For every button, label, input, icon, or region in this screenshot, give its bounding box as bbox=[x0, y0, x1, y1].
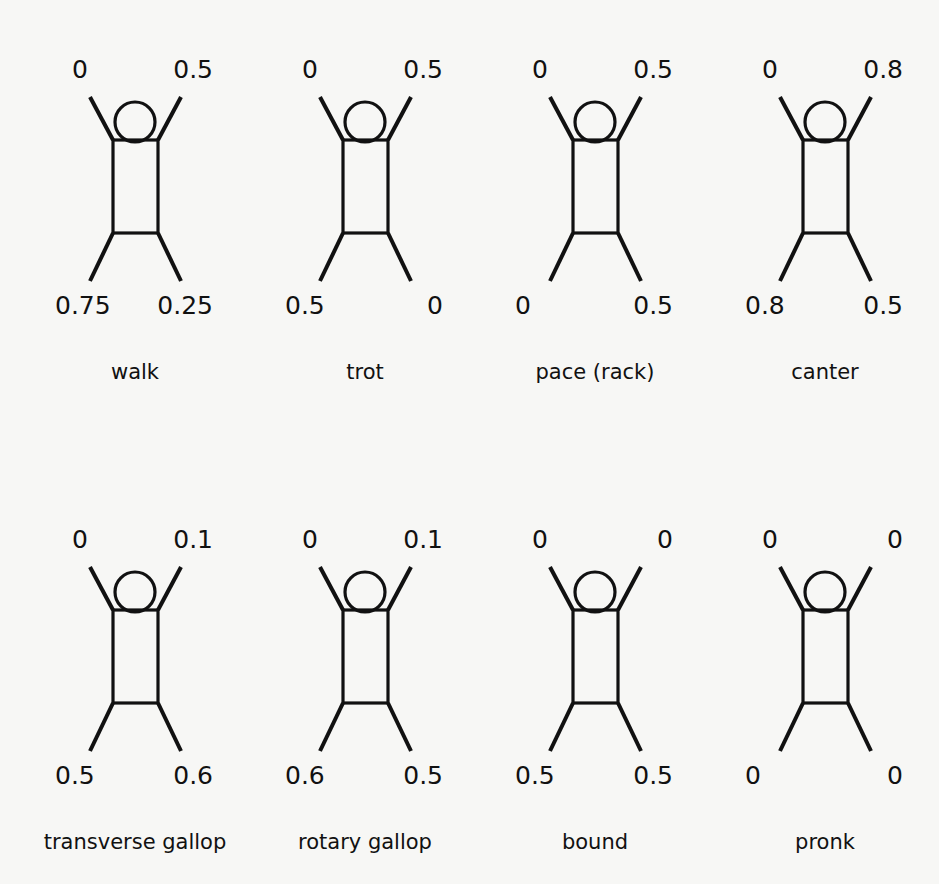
gait-name: pace (rack) bbox=[480, 360, 710, 384]
gait-name: rotary gallop bbox=[250, 830, 480, 854]
gait-name: trot bbox=[250, 360, 480, 384]
hind-right-phase: 0 bbox=[427, 293, 443, 318]
hind-right-phase: 0 bbox=[887, 763, 903, 788]
hind-right-phase: 0.5 bbox=[633, 293, 673, 318]
hind-right-phase: 0.6 bbox=[173, 763, 213, 788]
front-left-phase: 0 bbox=[302, 57, 318, 82]
front-right-phase: 0.5 bbox=[173, 57, 213, 82]
gait-name: transverse gallop bbox=[20, 830, 250, 854]
hind-left-phase: 0 bbox=[745, 763, 761, 788]
front-left-phase: 0 bbox=[762, 527, 778, 552]
gait-figure-walk: 0 0.5 0.75 0.25 walk bbox=[20, 45, 250, 405]
hind-right-phase: 0.5 bbox=[863, 293, 903, 318]
front-right-phase: 0.1 bbox=[403, 527, 443, 552]
hind-left-phase: 0.5 bbox=[515, 763, 555, 788]
gait-name: canter bbox=[710, 360, 939, 384]
front-right-phase: 0.5 bbox=[633, 57, 673, 82]
hind-left-phase: 0.5 bbox=[285, 293, 325, 318]
front-left-phase: 0 bbox=[532, 527, 548, 552]
hind-left-phase: 0.75 bbox=[55, 293, 111, 318]
front-right-phase: 0.8 bbox=[863, 57, 903, 82]
front-left-phase: 0 bbox=[72, 57, 88, 82]
gait-figure-transverse-gallop: 0 0.1 0.5 0.6 transverse gallop bbox=[20, 515, 250, 875]
gait-figure-trot: 0 0.5 0.5 0 trot bbox=[250, 45, 480, 405]
hind-right-phase: 0.5 bbox=[403, 763, 443, 788]
hind-left-phase: 0 bbox=[515, 293, 531, 318]
gait-figure-rotary-gallop: 0 0.1 0.6 0.5 rotary gallop bbox=[250, 515, 480, 875]
gait-name: pronk bbox=[710, 830, 939, 854]
front-left-phase: 0 bbox=[302, 527, 318, 552]
hind-right-phase: 0.25 bbox=[157, 293, 213, 318]
gait-name: bound bbox=[480, 830, 710, 854]
front-right-phase: 0 bbox=[887, 527, 903, 552]
front-left-phase: 0 bbox=[762, 57, 778, 82]
front-right-phase: 0.5 bbox=[403, 57, 443, 82]
hind-right-phase: 0.5 bbox=[633, 763, 673, 788]
hind-left-phase: 0.5 bbox=[55, 763, 95, 788]
gait-figure-bound: 0 0 0.5 0.5 bound bbox=[480, 515, 710, 875]
gait-figure-canter: 0 0.8 0.8 0.5 canter bbox=[710, 45, 939, 405]
front-left-phase: 0 bbox=[72, 527, 88, 552]
gait-figure-pace-rack: 0 0.5 0 0.5 pace (rack) bbox=[480, 45, 710, 405]
gait-name: walk bbox=[20, 360, 250, 384]
hind-left-phase: 0.6 bbox=[285, 763, 325, 788]
hind-left-phase: 0.8 bbox=[745, 293, 785, 318]
gait-figure-pronk: 0 0 0 0 pronk bbox=[710, 515, 939, 875]
front-left-phase: 0 bbox=[532, 57, 548, 82]
front-right-phase: 0 bbox=[657, 527, 673, 552]
front-right-phase: 0.1 bbox=[173, 527, 213, 552]
